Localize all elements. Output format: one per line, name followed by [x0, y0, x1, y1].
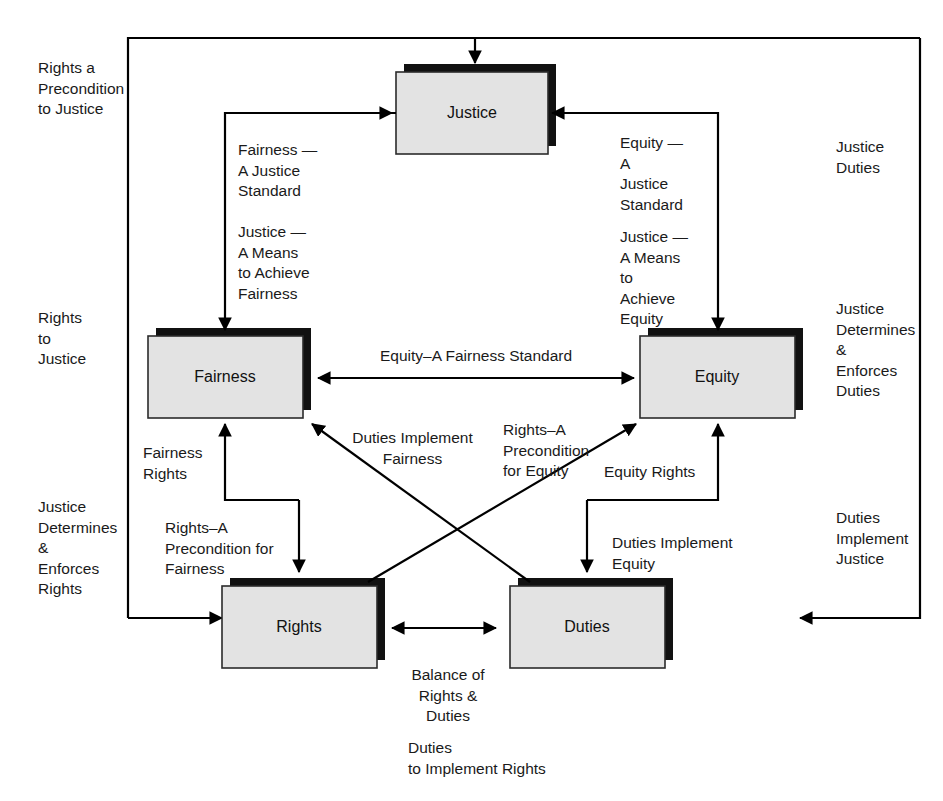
label-equity-rights: Equity Rights: [604, 462, 724, 483]
label-balance-of-rights-duties: Balance of Rights & Duties: [398, 665, 498, 727]
diagram-canvas: Justice Fairness Equity Rights Duties: [0, 0, 943, 801]
label-justice-duties: Justice Duties: [836, 137, 936, 178]
label-justice-determines-enforces-duties: Justice Determines & Enforces Duties: [836, 299, 941, 402]
label-justice-determines-enforces-rights: Justice Determines & Enforces Rights: [38, 497, 143, 600]
label-rights-a-precondition-for-equity: Rights–A Precondition for Equity: [503, 420, 613, 482]
justice-box-label: Justice: [447, 104, 497, 121]
label-rights-to-justice: Rights to Justice: [38, 308, 133, 370]
label-rights-precondition-to-justice: Rights a Precondition to Justice: [38, 58, 133, 120]
label-rights-a-precondition-for-fairness: Rights–A Precondition for Fairness: [165, 518, 315, 580]
equity-box-label: Equity: [695, 368, 739, 385]
label-duties-implement-equity: Duties Implement Equity: [612, 533, 772, 574]
label-justice-a-means-to-achieve-equity: Justice — A Means to Achieve Equity: [620, 227, 710, 330]
label-duties-implement-justice: Duties Implement Justice: [836, 508, 936, 570]
label-equity-a-fairness-standard: Equity–A Fairness Standard: [380, 346, 572, 367]
label-equity-a-justice-standard: Equity — A Justice Standard: [620, 133, 710, 215]
duties-box-label: Duties: [564, 618, 609, 635]
fairness-box-label: Fairness: [194, 368, 255, 385]
label-fairness-rights: Fairness Rights: [143, 443, 233, 484]
label-duties-implement-fairness: Duties Implement Fairness: [330, 428, 495, 469]
connector-fairness-rights: [225, 424, 299, 500]
label-fairness-a-justice-standard: Fairness — A Justice Standard: [238, 140, 358, 202]
rights-box-label: Rights: [276, 618, 321, 635]
label-justice-a-means-to-achieve-fairness: Justice — A Means to Achieve Fairness: [238, 222, 363, 304]
label-duties-to-implement-rights: Duties to Implement Rights: [408, 738, 628, 779]
